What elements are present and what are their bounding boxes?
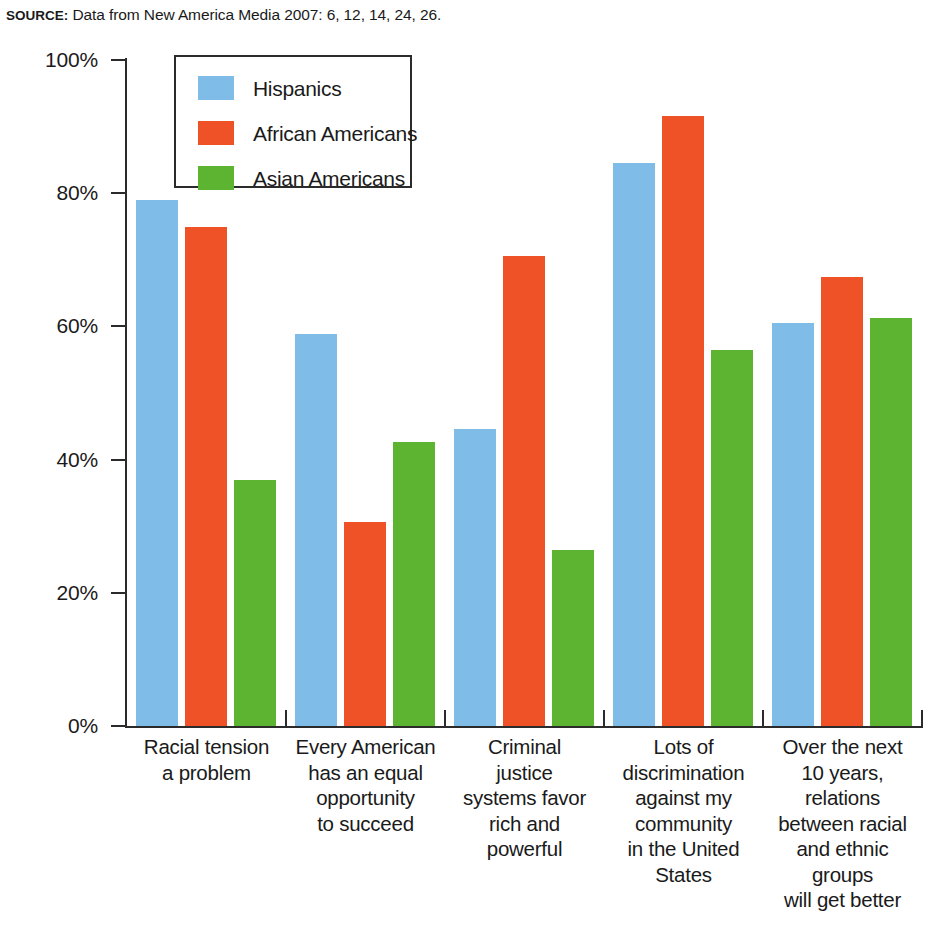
category-label-line: in the United — [628, 837, 740, 860]
category-label-1: Racial tensiona problem — [127, 734, 286, 785]
y-axis-tick — [111, 192, 127, 194]
category-label-line: Every American — [295, 735, 435, 758]
legend-swatch-african-americans — [198, 121, 234, 145]
category-label-line: groups — [812, 863, 873, 886]
source-text: Data from New America Media 2007: 6, 12,… — [68, 6, 441, 23]
y-axis-tick — [111, 725, 127, 727]
bar-1-group-5 — [772, 323, 814, 726]
category-label-line: community — [635, 812, 732, 835]
y-axis-tick-label: 80% — [57, 182, 98, 203]
bar-2-group-4 — [662, 116, 704, 726]
bar-3-group-4 — [711, 350, 753, 726]
category-label-line: justice — [496, 761, 552, 784]
bar-2-group-2 — [344, 522, 386, 726]
category-label-line: Over the next — [783, 735, 903, 758]
category-label-line: Criminal — [488, 735, 561, 758]
category-label-line: discrimination — [623, 761, 745, 784]
y-axis-tick — [111, 459, 127, 461]
category-label-2: Every Americanhas an equalopportunityto … — [286, 734, 445, 836]
y-axis-tick-label: 60% — [57, 315, 98, 336]
category-label-line: a problem — [162, 761, 251, 784]
bar-1-group-2 — [295, 334, 337, 726]
legend-swatch-hispanics — [198, 76, 234, 100]
category-label-4: Lots ofdiscriminationagainst mycommunity… — [604, 734, 763, 887]
category-label-line: has an equal — [308, 761, 422, 784]
legend-label: Hispanics — [253, 78, 341, 99]
category-label-line: 10 years, — [801, 761, 883, 784]
bar-1-group-3 — [454, 429, 496, 726]
category-label-line: and ethnic — [796, 837, 888, 860]
bar-chart: 0%20%40%60%80%100% Racial tensiona probl… — [0, 34, 936, 937]
legend-item-3: Asian Americans — [198, 161, 410, 195]
y-axis-tick — [111, 325, 127, 327]
category-label-line: States — [655, 863, 712, 886]
legend-item-1: Hispanics — [198, 71, 410, 105]
legend-item-2: African Americans — [198, 116, 410, 150]
bar-1-group-4 — [613, 163, 655, 726]
y-axis-tick-label: 100% — [45, 49, 98, 70]
category-label-line: against my — [635, 786, 732, 809]
bar-3-group-5 — [870, 318, 912, 726]
category-label-5: Over the next10 years,relationsbetween r… — [763, 734, 922, 913]
y-axis-tick-label: 20% — [57, 582, 98, 603]
bar-3-group-1 — [234, 480, 276, 726]
category-label-3: Criminaljusticesystems favorrich andpowe… — [445, 734, 604, 862]
y-axis-tick-label: 0% — [68, 715, 98, 736]
category-label-line: Lots of — [654, 735, 714, 758]
legend-label: African Americans — [253, 123, 417, 144]
category-label-line: will get better — [784, 888, 901, 911]
legend-label: Asian Americans — [253, 168, 405, 189]
bar-2-group-5 — [821, 277, 863, 726]
category-label-line: opportunity — [316, 786, 415, 809]
category-label-line: Racial tension — [144, 735, 269, 758]
category-label-line: relations — [805, 786, 880, 809]
category-label-line: to succeed — [317, 812, 414, 835]
bar-3-group-3 — [552, 550, 594, 726]
bar-3-group-2 — [393, 442, 435, 726]
bar-2-group-3 — [503, 256, 545, 726]
y-axis-tick-label: 40% — [57, 449, 98, 470]
source-label: SOURCE: — [6, 8, 68, 23]
legend-swatch-asian-americans — [198, 166, 234, 190]
source-note: SOURCE: Data from New America Media 2007… — [6, 5, 441, 26]
bar-1-group-1 — [136, 200, 178, 726]
category-label-line: powerful — [487, 837, 563, 860]
y-axis-tick — [111, 592, 127, 594]
y-axis-tick — [111, 59, 127, 61]
category-label-line: rich and — [489, 812, 560, 835]
bar-2-group-1 — [185, 227, 227, 727]
category-label-line: systems favor — [463, 786, 586, 809]
x-axis-line — [125, 726, 923, 728]
chart-legend: HispanicsAfrican AmericansAsian American… — [174, 55, 412, 188]
category-label-line: between racial — [778, 812, 907, 835]
